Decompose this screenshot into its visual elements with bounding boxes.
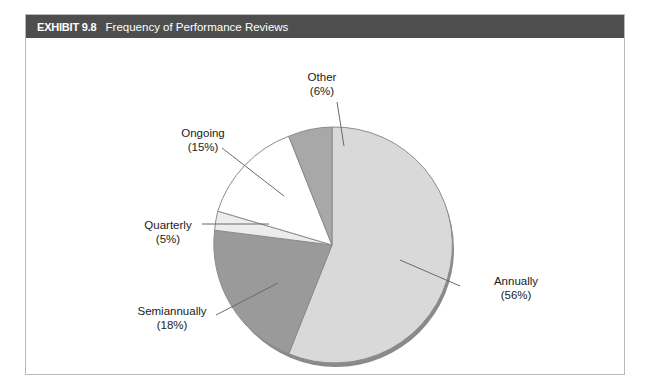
pie-label-quarterly: Quarterly (5%): [122, 218, 214, 246]
exhibit-frame: EXHIBIT 9.8 Frequency of Performance Rev…: [25, 14, 625, 375]
pie-label-semiannually-percent: (18%): [108, 318, 236, 332]
pie-label-quarterly-name: Quarterly: [122, 218, 214, 232]
pie-label-annually-name: Annually: [466, 274, 566, 288]
pie-label-semiannually-name: Semiannually: [108, 304, 236, 318]
pie-label-ongoing: Ongoing (15%): [158, 126, 248, 154]
pie-label-ongoing-percent: (15%): [158, 140, 248, 154]
pie-label-quarterly-percent: (5%): [122, 232, 214, 246]
pie-label-annually: Annually (56%): [466, 274, 566, 302]
pie-label-other-name: Other: [284, 70, 360, 84]
pie-label-other: Other (6%): [284, 70, 360, 98]
exhibit-header-bar: EXHIBIT 9.8 Frequency of Performance Rev…: [26, 15, 624, 38]
pie-label-other-percent: (6%): [284, 84, 360, 98]
pie-label-annually-percent: (56%): [466, 288, 566, 302]
pie-label-ongoing-name: Ongoing: [158, 126, 248, 140]
pie-label-semiannually: Semiannually (18%): [108, 304, 236, 332]
pie-chart-area: Other (6%) Ongoing (15%) Quarterly (5%) …: [26, 38, 624, 374]
exhibit-title: Frequency of Performance Reviews: [106, 21, 289, 33]
exhibit-number: EXHIBIT 9.8: [37, 21, 97, 33]
